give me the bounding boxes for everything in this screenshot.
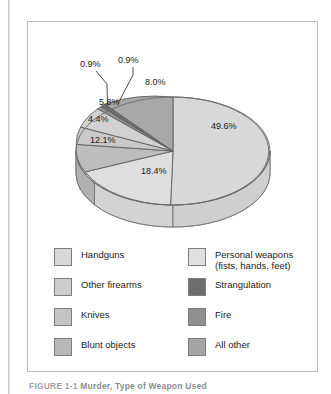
pie-label-strangulation: 0.9% xyxy=(118,55,139,65)
legend-swatch-fire xyxy=(188,308,206,326)
legend-swatch-all-other xyxy=(188,338,206,356)
legend-label-knives: Knives xyxy=(81,307,110,321)
legend-label-strangulation: Strangulation xyxy=(215,277,271,291)
legend-label-blunt-objects: Blunt objects xyxy=(81,337,135,351)
legend-item-all-other[interactable]: All other xyxy=(188,337,318,367)
pie-label-personal-weapons: 18.4% xyxy=(141,166,167,176)
pie-label-fire: 0.9% xyxy=(80,59,101,69)
legend-item-strangulation[interactable]: Strangulation xyxy=(188,277,318,307)
legend-label-handguns: Handguns xyxy=(81,247,124,261)
figure-caption-title: Murder, Type of Weapon Used xyxy=(80,381,206,391)
legend-swatch-strangulation xyxy=(188,278,206,296)
figure-caption-number: FIGURE 1-1 xyxy=(29,381,78,391)
chart-legend: Handguns Other firearms Knives Blunt obj… xyxy=(28,247,319,372)
legend-column-right: Personal weapons (fists, hands, feet) St… xyxy=(188,247,318,367)
pie-label-other-firearms: 5.8% xyxy=(99,97,120,107)
legend-item-knives[interactable]: Knives xyxy=(54,307,184,337)
pie-chart: 49.6% 18.4% 12.1% 4.4% 5.8% 0.9% 0.9% 8.… xyxy=(28,22,319,237)
pie-label-handguns: 49.6% xyxy=(211,121,237,131)
legend-item-personal-weapons[interactable]: Personal weapons (fists, hands, feet) xyxy=(188,247,318,277)
legend-label-other-firearms: Other firearms xyxy=(81,277,142,291)
pie-label-blunt-objects: 4.4% xyxy=(88,114,109,124)
pie-label-all-other: 8.0% xyxy=(145,77,166,87)
legend-swatch-knives xyxy=(54,308,72,326)
pie-label-knives: 12.1% xyxy=(90,135,116,145)
legend-item-blunt-objects[interactable]: Blunt objects xyxy=(54,337,184,367)
page-gutter-line-2 xyxy=(9,0,10,394)
legend-label-fire: Fire xyxy=(215,307,231,321)
legend-swatch-blunt-objects xyxy=(54,338,72,356)
legend-item-fire[interactable]: Fire xyxy=(188,307,318,337)
legend-label-all-other: All other xyxy=(215,337,250,351)
legend-item-other-firearms[interactable]: Other firearms xyxy=(54,277,184,307)
figure-frame: 49.6% 18.4% 12.1% 4.4% 5.8% 0.9% 0.9% 8.… xyxy=(27,21,318,372)
legend-swatch-other-firearms xyxy=(54,278,72,296)
legend-item-handguns[interactable]: Handguns xyxy=(54,247,184,277)
legend-column-left: Handguns Other firearms Knives Blunt obj… xyxy=(54,247,184,367)
legend-label-personal-weapons: Personal weapons (fists, hands, feet) xyxy=(215,247,293,271)
figure-caption: FIGURE 1-1 Murder, Type of Weapon Used xyxy=(29,381,329,391)
legend-swatch-handguns xyxy=(54,248,72,266)
legend-swatch-personal-weapons xyxy=(188,248,206,266)
pie-chart-svg: 49.6% 18.4% 12.1% 4.4% 5.8% 0.9% 0.9% 8.… xyxy=(28,22,319,237)
